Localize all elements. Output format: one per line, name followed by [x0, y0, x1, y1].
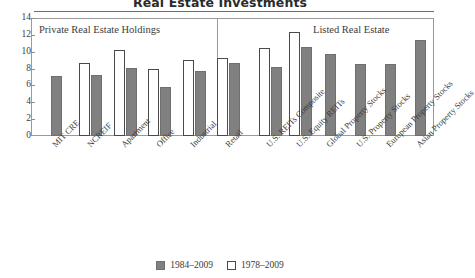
chart-title: Real Estate Investments	[0, 0, 440, 7]
y-tick-label: 4	[7, 97, 31, 106]
bar-1978-2009[interactable]	[217, 58, 228, 136]
bar-1978-2009[interactable]	[148, 69, 159, 136]
y-tick-label: 12	[7, 30, 31, 39]
bar-1984-2009[interactable]	[51, 76, 62, 136]
bar-1984-2009[interactable]	[301, 47, 312, 136]
y-tick-mark	[31, 52, 35, 53]
y-tick-label: 10	[7, 47, 31, 56]
y-tick-mark	[31, 102, 35, 103]
title-divider-rule	[34, 11, 434, 12]
bar-1978-2009[interactable]	[114, 50, 125, 136]
bar-1978-2009[interactable]	[183, 60, 194, 136]
legend-swatch-hollow	[227, 261, 236, 270]
legend-entry[interactable]: 1978–2009	[227, 260, 284, 270]
legend-label: 1978–2009	[241, 260, 284, 270]
legend-swatch-filled	[156, 261, 165, 270]
legend-entry[interactable]: 1984–2009	[156, 260, 213, 270]
chart-legend: 1984–20091978–2009	[0, 257, 440, 273]
y-tick-mark	[31, 35, 35, 36]
x-axis-labels: MIT CRENCREIFApartmentOfficeIndustrialRe…	[0, 138, 440, 248]
y-tick-mark	[31, 69, 35, 70]
bar-1978-2009[interactable]	[259, 48, 270, 137]
legend-label: 1984–2009	[170, 260, 213, 270]
y-tick-label: 2	[7, 114, 31, 123]
y-tick-label: 8	[7, 64, 31, 73]
y-tick-mark	[31, 18, 35, 19]
bar-1984-2009[interactable]	[229, 63, 240, 136]
y-tick-mark	[31, 119, 35, 120]
y-tick-label: 6	[7, 80, 31, 89]
bar-1984-2009[interactable]	[385, 64, 396, 136]
bars-layer	[31, 18, 434, 136]
bar-1984-2009[interactable]	[355, 64, 366, 136]
y-tick-mark	[31, 85, 35, 86]
y-tick-label: 14	[7, 13, 31, 22]
